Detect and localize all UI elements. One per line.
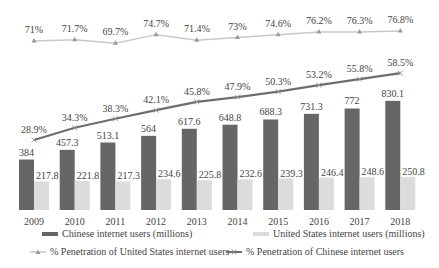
x-axis-ticks: 2009201020112012201320142015201620172018 xyxy=(24,216,410,227)
bar-us-users xyxy=(156,179,171,210)
legend-label: % Penetration of Chinese internet users xyxy=(246,246,404,257)
line-value-label: 71.7% xyxy=(62,23,88,34)
bar-value-label: 513.1 xyxy=(97,130,120,141)
bar-us-users xyxy=(278,179,293,210)
bar-chinese-users xyxy=(141,136,156,210)
bar-us-users xyxy=(197,180,212,210)
bar-value-label: 225.8 xyxy=(199,169,222,180)
x-tick-label: 2012 xyxy=(146,216,166,227)
triangle-marker-icon xyxy=(154,32,159,37)
triangle-line-swatch-icon xyxy=(30,248,46,256)
bar-value-label: 250.8 xyxy=(402,166,425,177)
bar-us-users xyxy=(360,177,375,210)
bar-value-label: 772 xyxy=(345,95,360,106)
bar-us-users xyxy=(400,177,415,210)
x-tick-label: 2015 xyxy=(268,216,288,227)
legend-label: % Penetration of United States internet … xyxy=(50,246,229,257)
line-value-label: 38.3% xyxy=(102,103,128,114)
line-value-label: 50.3% xyxy=(265,76,291,87)
bar-us-users xyxy=(75,181,90,210)
bar-value-label: 248.6 xyxy=(362,166,385,177)
line-value-label: 58.5% xyxy=(387,57,413,68)
bar-value-label: 830.1 xyxy=(382,88,405,99)
bar-chinese-users xyxy=(100,143,115,210)
line-value-label: 74.7% xyxy=(143,18,169,29)
bar-value-label: 232.6 xyxy=(240,168,263,179)
line-value-label: 76.2% xyxy=(306,15,332,26)
bar-value-label: 457.3 xyxy=(56,137,79,148)
line-value-label: 71.4% xyxy=(184,23,210,34)
bar-chinese-users xyxy=(304,114,319,210)
legend-item-chinese-users: Chinese internet users (millions) xyxy=(42,228,192,239)
bar-value-label: 217.3 xyxy=(117,170,139,181)
bar-value-label: 217.8 xyxy=(36,170,59,181)
bar-chinese-users xyxy=(182,129,197,210)
x-tick-label: 2014 xyxy=(228,216,248,227)
line-value-label: 73% xyxy=(228,21,246,32)
bar-chinese-users xyxy=(385,101,400,210)
x-marker-line-swatch-icon xyxy=(226,248,242,256)
legend-label: Chinese internet users (millions) xyxy=(62,228,192,239)
x-tick-label: 2017 xyxy=(350,216,370,227)
bar-value-label: 648.8 xyxy=(219,112,242,123)
bar-us-users xyxy=(238,179,253,210)
line-value-label: 76.3% xyxy=(347,15,373,26)
x-tick-label: 2011 xyxy=(106,216,126,227)
bar-us-users xyxy=(319,178,334,210)
legend-label: United States internet users (millions) xyxy=(273,228,425,239)
x-tick-label: 2016 xyxy=(309,216,329,227)
triangle-marker-icon xyxy=(398,28,403,32)
line-value-label: 55.8% xyxy=(347,63,373,74)
x-tick-label: 2018 xyxy=(390,216,410,227)
dark-bar-swatch-icon xyxy=(42,232,58,236)
line-value-label: 47.9% xyxy=(225,81,251,92)
line-us-penetration xyxy=(34,31,400,43)
bar-chinese-users xyxy=(19,160,34,210)
bar-us-users xyxy=(115,181,130,210)
legend-item-china-penetration: % Penetration of Chinese internet users xyxy=(226,246,404,257)
bar-value-label: 688.3 xyxy=(259,106,282,117)
line-value-label: 28.9% xyxy=(21,124,47,135)
bar-value-label: 617.6 xyxy=(178,116,201,127)
bar-chinese-users xyxy=(223,125,238,210)
bar-value-label: 239.3 xyxy=(280,168,303,179)
line-value-label: 42.1% xyxy=(143,94,169,105)
line-value-label: 69.7% xyxy=(102,26,128,37)
x-tick-label: 2009 xyxy=(24,216,44,227)
bar-value-label: 246.4 xyxy=(321,167,344,178)
bar-chinese-users xyxy=(60,150,75,210)
x-tick-label: 2010 xyxy=(65,216,85,227)
bar-value-label: 384 xyxy=(19,147,34,158)
bar-chinese-users xyxy=(263,119,278,210)
bar-us-users xyxy=(34,181,49,210)
x-tick-label: 2013 xyxy=(187,216,207,227)
line-value-label: 74.6% xyxy=(265,18,291,29)
bar-value-label: 221.8 xyxy=(77,170,100,181)
line-value-label: 71% xyxy=(25,24,43,35)
line-value-label: 76.8% xyxy=(387,14,413,25)
bar-value-label: 564 xyxy=(141,123,156,134)
triangle-marker-icon xyxy=(72,37,77,42)
light-bar-swatch-icon xyxy=(253,232,269,236)
bar-value-label: 731.3 xyxy=(300,101,323,112)
line-value-label: 53.2% xyxy=(306,69,332,80)
legend-item-us-users: United States internet users (millions) xyxy=(253,228,425,239)
bar-chinese-users xyxy=(345,108,360,210)
line-value-label: 34.3% xyxy=(62,112,88,123)
line-value-label: 45.8% xyxy=(184,86,210,97)
legend-item-us-penetration: % Penetration of United States internet … xyxy=(30,246,229,257)
bar-value-label: 234.6 xyxy=(158,168,181,179)
